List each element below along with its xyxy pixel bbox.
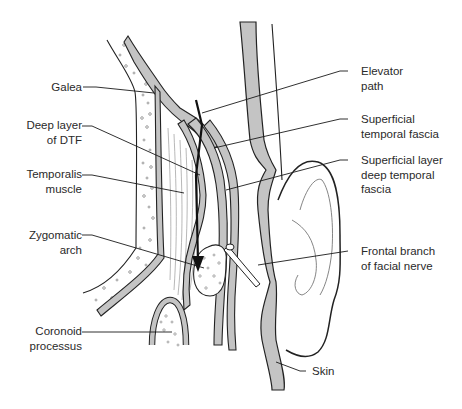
label-elevator-path: Elevator path (361, 64, 403, 93)
label-superficial-temporal-fascia: Superficial temporal fascia (361, 112, 439, 141)
label-superficial-layer-dtf: Superficial layer deep temporal fascia (361, 153, 443, 197)
label-coronoid-process: Coronoid processus (30, 324, 82, 353)
label-frontal-branch-facial-nerve: Frontal branch of facial nerve (361, 244, 435, 273)
label-skin: Skin (312, 364, 334, 379)
label-deep-layer-dtf: Deep layer of DTF (26, 118, 82, 147)
label-galea: Galea (51, 80, 82, 95)
skin-layer (240, 22, 284, 390)
ear (278, 161, 340, 356)
label-temporalis-muscle: Temporalis muscle (26, 167, 82, 196)
coronoid-process-bone (152, 300, 186, 346)
skin-outer-line (272, 24, 282, 180)
label-zygomatic-arch: Zygomatic arch (29, 228, 82, 257)
